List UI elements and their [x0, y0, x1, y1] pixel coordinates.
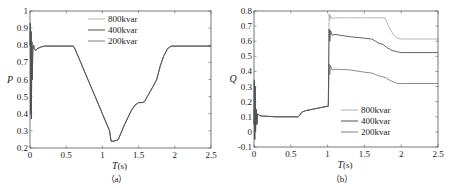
- y-tick-label: 0.2: [241, 97, 252, 107]
- series-line-400kvar: [254, 29, 438, 139]
- y-tick-label: 1: [24, 6, 29, 16]
- series-line-200kvar: [254, 64, 438, 139]
- legend-label: 400kvar: [361, 116, 391, 126]
- x-axis-unit: (s): [118, 161, 128, 171]
- x-tick-label: 2.5: [205, 150, 217, 160]
- y-tick-label: 0.6: [17, 75, 29, 85]
- legend-label: 800kvar: [361, 105, 391, 115]
- chart-a-active-power: 00.511.522.50.20.30.40.50.60.70.80.91PT(…: [6, 6, 217, 184]
- plot-frame: [254, 11, 438, 147]
- x-axis-unit: (s): [343, 160, 353, 170]
- legend-label: 200kvar: [361, 127, 391, 137]
- y-tick-label: 0.3: [17, 126, 29, 136]
- y-tick-label: 0.7: [241, 21, 253, 31]
- y-tick-label: 0.4: [241, 66, 253, 76]
- y-tick-label: 0.6: [241, 36, 253, 46]
- chart-b-reactive-power: 00.511.522.5-0.100.10.20.30.40.50.60.70.…: [229, 6, 444, 184]
- x-tick-label: 1.5: [133, 150, 145, 160]
- chart-caption: （b）: [331, 174, 354, 184]
- x-tick-label: 0.5: [61, 150, 73, 160]
- y-tick-label: 0.2: [17, 143, 28, 153]
- figure: 00.511.522.50.20.30.40.50.60.70.80.91PT(…: [0, 0, 449, 188]
- y-tick-label: 0.5: [17, 92, 29, 102]
- y-tick-label: 0.8: [17, 40, 29, 50]
- x-tick-label: 2: [399, 149, 404, 159]
- chart-caption: （a）: [106, 174, 128, 184]
- x-tick-label: 2.5: [432, 149, 444, 159]
- y-axis-label: Q: [229, 73, 237, 84]
- x-tick-label: 1: [325, 149, 330, 159]
- x-tick-label: 0: [28, 150, 33, 160]
- legend-label: 400kvar: [108, 25, 138, 35]
- y-axis-label: P: [6, 74, 13, 85]
- y-tick-label: 0.4: [17, 109, 29, 119]
- y-tick-label: 0.5: [241, 51, 253, 61]
- y-tick-label: 0.9: [17, 23, 29, 33]
- legend-label: 200kvar: [108, 36, 138, 46]
- y-tick-label: 0.1: [241, 112, 252, 122]
- x-tick-label: 0: [252, 149, 257, 159]
- legend-label: 800kvar: [108, 14, 138, 24]
- y-tick-label: 0.8: [241, 6, 253, 16]
- y-tick-label: 0: [248, 127, 253, 137]
- y-tick-label: 0.7: [17, 57, 29, 67]
- y-tick-label: 0.3: [241, 82, 253, 92]
- y-tick-label: -0.1: [238, 142, 252, 152]
- x-tick-label: 2: [173, 150, 178, 160]
- x-tick-label: 1.5: [359, 149, 371, 159]
- x-tick-label: 0.5: [285, 149, 297, 159]
- x-tick-label: 1: [100, 150, 105, 160]
